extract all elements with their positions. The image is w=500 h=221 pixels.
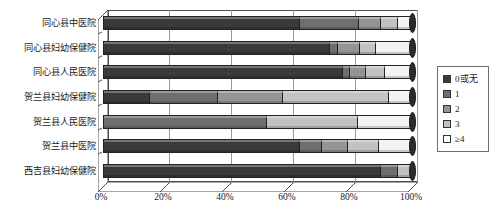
x-axis-label: 80% <box>340 192 357 202</box>
bar-stack <box>103 16 413 30</box>
bar-segment <box>381 164 397 178</box>
bar-segment <box>379 139 413 153</box>
y-axis-label: 同心县中医院 <box>0 18 96 28</box>
y-axis-label: 贺兰县中医院 <box>0 141 96 151</box>
bar-segment <box>358 115 413 129</box>
bar-segment <box>103 41 330 55</box>
bar-stack <box>103 139 413 153</box>
x-axis-labels: 0%20%40%60%80%100% <box>98 192 428 212</box>
bar-segment <box>348 139 380 153</box>
legend-item: ≥4 <box>443 132 484 146</box>
bar-end-cap <box>409 62 416 82</box>
bar-segment <box>330 41 337 55</box>
bar-end-cap <box>409 13 416 33</box>
bar-row <box>103 16 413 30</box>
legend-swatch <box>443 75 451 83</box>
legend-label: 0或无 <box>455 74 478 84</box>
bar-segment <box>267 115 357 129</box>
bar-segment <box>300 139 322 153</box>
bar-segment <box>103 139 300 153</box>
stacked-bar-chart: 同心县中医院同心县妇幼保健院同心县人民医院贺兰县妇幼保健院贺兰县人民医院贺兰县中… <box>0 0 500 221</box>
bar-row <box>103 41 413 55</box>
bar-segment <box>103 16 300 30</box>
legend-swatch <box>443 105 451 113</box>
bar-segment <box>322 139 347 153</box>
y-axis-label: 贺兰县人民医院 <box>0 117 96 127</box>
bar-segment <box>103 65 343 79</box>
bar-segment <box>150 90 218 104</box>
x-axis-label: 100% <box>400 192 422 202</box>
bar-row <box>103 115 413 129</box>
bar-stack <box>103 164 413 178</box>
bar-stack <box>103 65 413 79</box>
legend-label: 1 <box>455 89 460 99</box>
y-axis-labels: 同心县中医院同心县妇幼保健院同心县人民医院贺兰县妇幼保健院贺兰县人民医院贺兰县中… <box>0 12 96 188</box>
legend-label: 2 <box>455 104 460 114</box>
x-axis-label: 20% <box>154 192 171 202</box>
chart-legend: 0或无123≥4 <box>437 66 489 152</box>
x-axis-label: 40% <box>216 192 233 202</box>
bar-segment <box>103 115 267 129</box>
legend-item: 0或无 <box>443 72 484 86</box>
legend-item: 2 <box>443 102 484 116</box>
bar-segment <box>366 65 385 79</box>
bar-stack <box>103 115 413 129</box>
legend-swatch <box>443 120 451 128</box>
bar-row <box>103 139 413 153</box>
legend-item: 1 <box>443 87 484 101</box>
bar-end-cap <box>409 136 416 156</box>
plot-area <box>98 10 418 192</box>
bar-row <box>103 65 413 79</box>
y-axis-label: 同心县妇幼保健院 <box>0 43 96 53</box>
bar-segment <box>376 41 413 55</box>
bar-segment <box>103 90 150 104</box>
y-axis-label: 贺兰县妇幼保健院 <box>0 92 96 102</box>
bar-stack <box>103 41 413 55</box>
bar-row <box>103 164 413 178</box>
bar-segment <box>218 90 283 104</box>
x-axis-label: 0% <box>95 192 108 202</box>
x-axis-label: 60% <box>278 192 295 202</box>
bar-segment <box>103 164 381 178</box>
bar-end-cap <box>409 112 416 132</box>
bar-segment <box>338 41 360 55</box>
y-axis-label: 西吉县妇幼保健院 <box>0 166 96 176</box>
legend-label: 3 <box>455 119 460 129</box>
bar-segment <box>283 90 388 104</box>
bar-stack <box>103 90 413 104</box>
bar-segment <box>343 65 350 79</box>
legend-label: ≥4 <box>455 134 464 144</box>
bar-segment <box>300 16 359 30</box>
y-axis-label: 同心县人民医院 <box>0 67 96 77</box>
bar-end-cap <box>409 87 416 107</box>
bar-segment <box>360 41 376 55</box>
bar-end-cap <box>409 161 416 181</box>
bar-segment <box>350 65 366 79</box>
bar-row <box>103 90 413 104</box>
legend-item: 3 <box>443 117 484 131</box>
bar-segment <box>381 16 397 30</box>
legend-swatch <box>443 90 451 98</box>
legend-swatch <box>443 135 451 143</box>
bar-end-cap <box>409 38 416 58</box>
bars-layer <box>98 10 418 192</box>
bar-segment <box>359 16 381 30</box>
